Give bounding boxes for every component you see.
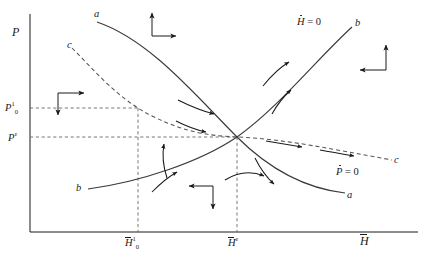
curve-label-b-upper-right: b [355,18,360,29]
x-tick-h-one-zero-base: H [125,238,133,249]
motion-arrow-c-right-one [266,141,302,147]
direction-field-east [360,45,386,70]
y-tick-p-one-zero-sub: 0 [15,108,18,115]
motion-arrow-b-lower [163,144,167,178]
x-tick-h-one-zero-sub: 0 [136,243,139,250]
motion-arrow-lower-right-out [225,173,264,180]
curve-label-c-lower-right: c [394,155,399,166]
motion-arrow-b-upper [263,62,289,86]
motion-arrow-a-saddle [255,158,274,184]
x-tick-h-e-base: H [228,238,236,249]
curve-label-a-upper-left: a [94,9,99,20]
curve-label-b-lower-left: b [76,183,81,194]
motion-arrow-b-right [272,90,291,114]
direction-field-south [189,186,213,209]
x-axis-label-text: H [360,235,369,247]
curve-a-p-dot-zero [97,22,345,193]
curve-c-saddle-path [72,48,392,160]
curve-label-a-lower-right: a [347,190,352,201]
equation-label-p-dot-zero-base: P [336,167,342,178]
x-axis-label: H [360,235,369,247]
x-tick-h-one-zero: H10 [125,236,139,250]
y-tick-p-one-zero-sup: 1 [11,100,14,107]
equation-label-p-dot-zero: P = 0 [336,167,359,178]
y-tick-p-e: Pε [8,131,17,143]
guide-lines [30,108,237,232]
direction-field-north [152,13,176,36]
x-tick-h-e: Hε [228,236,238,248]
x-tick-h-one-zero-sup: 1 [133,235,136,242]
diagram-canvas [0,0,431,262]
motion-arrow-lower-left-in [152,172,177,192]
equation-label-h-dot-zero: H = 0 [297,17,321,28]
y-tick-p-one-zero: P10 [5,101,18,115]
y-axis-label: P [12,26,19,38]
equation-label-p-dot-zero-rhs: = 0 [345,166,359,177]
curve-label-c-upper-left: c [67,40,72,51]
motion-arrow-c-right-two [320,150,354,156]
curve-b-h-dot-zero [88,27,352,189]
direction-field-west [58,93,84,115]
phase-diagram-figure: P H P10 Pε H10 Hε a a b b c c H = 0 P = … [0,0,431,262]
equation-label-h-dot-zero-rhs: = 0 [307,16,321,27]
equation-label-h-dot-zero-base: H [297,17,305,28]
y-tick-p-e-sup: ε [14,130,17,137]
x-tick-h-e-sup: ε [236,235,239,242]
